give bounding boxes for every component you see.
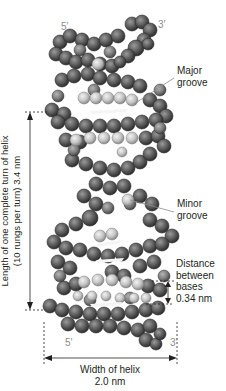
helix-turn-length-label: Length of one complete turn of helix (10… [0, 116, 25, 306]
strand-end-bottom-right: 3′ [170, 337, 177, 348]
helix-width-label: Width of helix 2.0 nm [60, 364, 160, 388]
major-groove-label: Major groove [177, 65, 208, 89]
arrow-down-small-icon [165, 298, 171, 304]
strand-end-top-right: 3′ [158, 19, 165, 30]
arrow-up-icon [27, 112, 33, 120]
strand-end-bottom-left: 5′ [65, 337, 72, 348]
arrow-down-icon [27, 302, 33, 310]
minor-groove-label: Minor groove [177, 198, 208, 222]
backbone-strand-a [43, 15, 179, 350]
base-distance-label: Distance between bases 0.34 nm [176, 258, 215, 304]
arrow-left-icon [44, 355, 52, 361]
arrow-right-icon [169, 355, 177, 361]
strand-end-top-left: 5′ [61, 21, 68, 32]
dna-helix-model [0, 0, 226, 391]
